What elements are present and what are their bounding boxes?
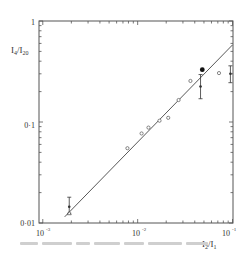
x-tick-label-1e-2: 10 -2 xyxy=(132,227,147,238)
plot-frame xyxy=(39,21,233,223)
y-axis-label: I4/I20 xyxy=(11,45,29,56)
open-triangle-point xyxy=(67,211,71,215)
open-circle-point xyxy=(217,71,220,74)
svg-text:-3: -3 xyxy=(46,227,51,232)
y-tick-label-0.01: 0·01 xyxy=(20,219,35,228)
large-filled-point xyxy=(200,67,205,72)
open-circle-point xyxy=(158,119,161,122)
data-points xyxy=(67,66,232,215)
svg-text:I4/I20: I4/I20 xyxy=(11,45,29,56)
x-tick-label-1e-1: 10 -1 xyxy=(222,227,237,238)
fit-line xyxy=(65,45,233,217)
svg-text:10: 10 xyxy=(222,229,230,238)
open-circle-point xyxy=(189,79,192,82)
figure-caption-blurred xyxy=(20,242,230,248)
regression-line xyxy=(65,45,233,217)
open-circle-point xyxy=(126,147,129,150)
x-tick-label-1e-3: 10 -3 xyxy=(36,227,51,238)
svg-text:10: 10 xyxy=(132,229,140,238)
y-tick-label-1: 1 xyxy=(31,18,35,27)
svg-text:-1: -1 xyxy=(232,227,237,232)
log-log-scatter-chart: 1 0·1 0·01 10 -3 10 -2 10 -1 I4/I20 I2/I… xyxy=(0,0,247,260)
filled-circle-point xyxy=(229,73,232,76)
open-circle-point xyxy=(167,116,170,119)
axis-ticks xyxy=(39,21,233,223)
open-circle-point xyxy=(177,98,180,101)
svg-text:10: 10 xyxy=(36,229,44,238)
open-circle-point xyxy=(140,132,143,135)
svg-text:-2: -2 xyxy=(142,227,147,232)
filled-circle-point xyxy=(68,205,71,208)
filled-circle-point xyxy=(199,85,202,88)
open-circle-point xyxy=(147,126,150,129)
y-tick-label-0.1: 0·1 xyxy=(24,121,35,130)
